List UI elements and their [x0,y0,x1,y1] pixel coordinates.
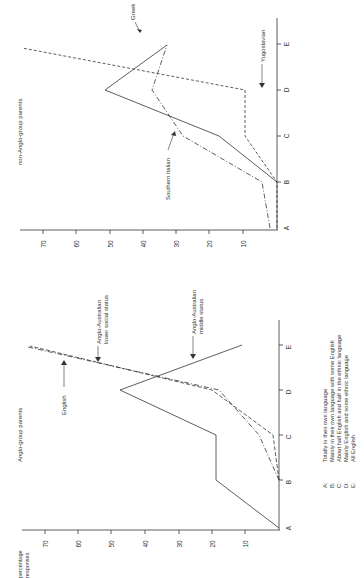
tick-30: 30 [173,240,180,248]
legend-text-a: Totally in their own language [322,389,328,462]
legend-text-b: Mainly in their own language with some E… [329,340,335,462]
arrow-icon [190,354,196,359]
legend-key-c: C: [336,482,342,488]
label-aa-middle-2: middle status [198,299,204,334]
cat-D: D [285,389,292,394]
cat-C: C [285,434,292,439]
label-aa-lower-2: lower social status [103,295,109,344]
legend-text-c: About half English and half in the ethni… [336,335,342,462]
chart-title-bottom: Anglo-group parents [17,408,23,462]
arrow-icon [171,131,176,136]
chart-title-top: non-Anglo-group parents [17,99,23,165]
legend-key-d: D: [343,482,349,488]
arrow-icon [137,29,142,33]
arrow-icon [61,360,67,365]
cat-A: A [285,525,292,530]
series-aa-middle [120,345,279,528]
chart-non-anglo: 70 60 50 40 30 20 10 A B C D E non-Anglo… [17,3,290,248]
tick-20: 20 [206,240,213,248]
y-axis-label-1: percentage [17,550,23,578]
figure: 70 60 50 40 30 20 10 A B C D E non-Anglo… [0,0,364,578]
label-aa-lower-1: Anglo-Australian [96,300,102,344]
series-aa-lower [30,346,279,480]
cat-D: D [283,87,290,92]
tick-70: 70 [42,540,49,548]
tick-10: 10 [240,240,247,248]
tick-30: 30 [176,540,183,548]
y-axis-label-2: responses [24,552,30,578]
tick-20: 20 [209,540,216,548]
cat-E: E [285,344,292,349]
series-yugoslavian [22,48,277,228]
series-greek [105,45,277,182]
legend-text-d: Mainly English and some ethnic language [343,355,349,462]
label-aa-middle-1: Anglo-Australian [191,290,197,334]
tick-40: 40 [142,540,149,548]
label-greek: Greek [130,3,136,20]
cat-B: B [283,180,290,184]
cat-B: B [285,480,292,484]
legend: A: B: C: D: E: Totally in their own lang… [322,335,356,488]
tick-10: 10 [242,540,249,548]
tick-50: 50 [107,240,114,248]
legend-key-b: B: [329,482,335,488]
cat-E: E [283,41,290,46]
cat-C: C [283,133,290,138]
tick-60: 60 [75,540,82,548]
cat-A: A [283,225,290,230]
legend-text-e: All English [350,435,356,462]
label-yugoslavian: Yugoslavian [260,30,266,62]
chart-anglo: 70 60 50 40 30 20 10 A B C D E Anglo-gro… [17,290,292,578]
tick-60: 60 [73,240,80,248]
legend-key-e: E: [350,482,356,488]
label-southern-italian: Southern Italian [165,158,171,200]
tick-40: 40 [140,240,147,248]
label-english: English [61,395,67,415]
tick-70: 70 [40,240,47,248]
arrow-icon [259,83,265,88]
legend-key-a: A: [322,482,328,488]
tick-50: 50 [108,540,115,548]
arrow-icon [95,357,101,362]
